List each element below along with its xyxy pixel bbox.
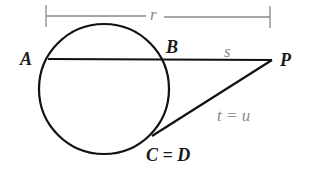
point-label-cd: C = D (146, 146, 190, 164)
diagram-canvas: A B P C = D r s t = u (0, 0, 313, 194)
segment-label-tu: t = u (217, 107, 250, 124)
point-label-a: A (20, 50, 32, 68)
circle (39, 24, 169, 154)
secant-line-ap (48, 59, 272, 60)
point-label-b: B (166, 38, 178, 56)
point-label-p: P (280, 51, 291, 69)
dimension-r (46, 5, 270, 28)
segment-label-s: s (224, 43, 231, 60)
tangent-line-pc (152, 60, 272, 136)
segment-label-r: r (150, 6, 157, 23)
